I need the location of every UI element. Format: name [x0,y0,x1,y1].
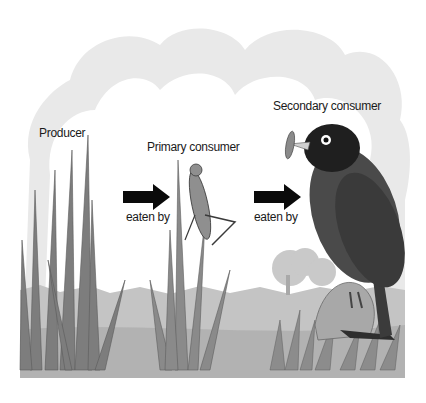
arrow-right-icon [123,184,171,210]
eaten-by-label-2: eaten by [254,210,298,224]
primary-consumer-label: Primary consumer [147,140,240,154]
arrow-right-icon [254,184,302,210]
food-chain-diagram: Producer Primary consumer Secondary cons… [0,0,426,403]
eaten-by-label-1: eaten by [126,210,170,224]
secondary-consumer-label: Secondary consumer [273,99,381,113]
scene-illustration [0,0,426,403]
producer-label: Producer [39,126,85,140]
